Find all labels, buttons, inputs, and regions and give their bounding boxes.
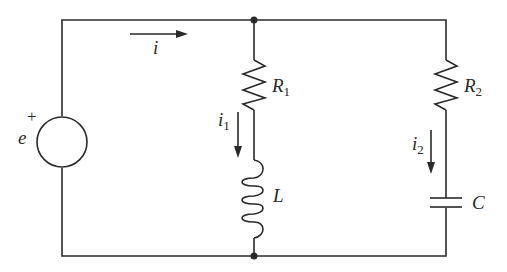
r2-symbol: R	[464, 75, 476, 96]
top-wire	[254, 20, 446, 60]
current-arrow-i1	[234, 112, 242, 158]
capacitor-label-c: C	[472, 193, 485, 212]
r2-subscript: 2	[476, 84, 483, 99]
source-label-e: e	[18, 128, 26, 147]
r1-symbol: R	[272, 75, 284, 96]
i1-subscript: 1	[223, 118, 230, 133]
resistor-label-r2: R2	[464, 76, 482, 98]
polarity-plus: +	[27, 108, 37, 125]
junction-top	[251, 17, 258, 24]
left-branch	[37, 20, 254, 256]
branch-2	[430, 60, 462, 207]
resistor-label-r1: R1	[272, 76, 290, 98]
r1-subscript: 1	[284, 84, 291, 99]
junction-bottom	[251, 253, 258, 260]
capacitor-icon	[430, 198, 462, 207]
circuit-drawing	[0, 0, 507, 272]
current-label-i1: i1	[218, 110, 230, 132]
resistor-r2-icon	[435, 60, 457, 110]
current-label-i2: i2	[412, 134, 424, 156]
inductor-icon	[242, 160, 263, 238]
resistor-r1-icon	[243, 60, 265, 110]
bottom-wire-right	[254, 208, 446, 256]
branch-1	[242, 17, 265, 260]
current-arrow-i2	[427, 130, 435, 174]
current-arrow-i	[130, 30, 188, 38]
voltage-source-icon	[37, 117, 87, 167]
inductor-label-l: L	[273, 186, 284, 205]
i2-subscript: 2	[417, 142, 424, 157]
circuit-diagram: + e i R1 i1 L R2 i2 C	[0, 0, 507, 272]
current-label-i: i	[153, 38, 158, 57]
